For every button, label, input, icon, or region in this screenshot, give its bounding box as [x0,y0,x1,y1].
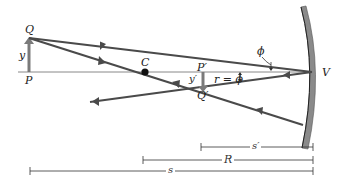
ray-q-to-v [29,38,312,72]
ray-arrow-icon [92,97,99,106]
mirror-diagram: Q y P C P′ y′ Q′ r = ϕ ϕ V s′ R s [0,0,346,182]
label-r-eq-phi: r = ϕ [214,74,243,85]
label-q: Q [25,24,34,35]
label-c: C [141,57,149,68]
ray-arrow-icon [100,42,106,51]
label-v: V [322,67,330,78]
ray-arrow-icon [98,56,106,65]
dim-label-s: s [166,165,175,175]
label-q-prime: Q′ [197,90,209,101]
center-point-c [141,68,148,75]
label-y: y [19,50,25,61]
label-phi: ϕ [257,46,265,57]
dim-label-s-prime: s′ [250,141,261,151]
diagram-canvas [0,0,346,182]
label-p-prime: P′ [197,62,207,73]
phi-angle-arc [262,57,271,65]
phi-tick-arrow [269,68,273,71]
concave-mirror [301,6,316,149]
label-p: P [25,75,32,86]
dim-label-r: R [222,154,234,165]
label-y-prime: y′ [189,74,197,84]
